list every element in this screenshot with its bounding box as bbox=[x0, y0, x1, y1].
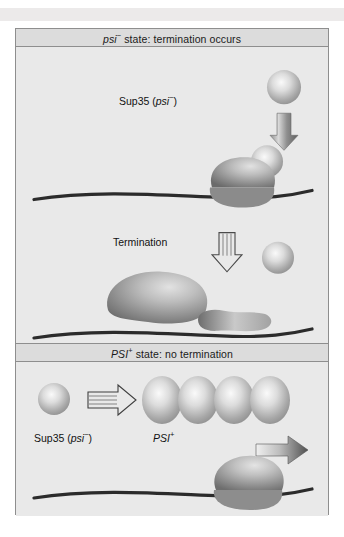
panel-psi-plus-title: PSI+ state: no termination bbox=[111, 346, 233, 360]
aggregate-unit-4 bbox=[250, 376, 290, 424]
ribosome-small-subunit bbox=[198, 310, 271, 331]
panel-psi-plus-state: PSI+ state: no termination Sup35 (psi−) … bbox=[16, 343, 328, 516]
panel-psi-plus-title-gene: PSI bbox=[111, 347, 128, 359]
sphere-sup35-monomer-bottom bbox=[38, 383, 70, 415]
panel-psi-plus-body: Sup35 (psi−) PSI+ bbox=[16, 362, 328, 516]
aggregate-unit-2 bbox=[178, 376, 218, 424]
panel-psi-plus-title-bar: PSI+ state: no termination bbox=[16, 344, 328, 362]
top-white-gap bbox=[0, 21, 344, 28]
aggregate-unit-1 bbox=[142, 376, 182, 424]
ribosome-reading-through bbox=[214, 456, 284, 510]
arrow-right-hollow-aggregation bbox=[88, 385, 136, 415]
panel-psi-plus-graphics bbox=[16, 362, 328, 516]
panel-psi-plus-title-rest: state: no termination bbox=[133, 347, 233, 359]
top-white-strip bbox=[0, 0, 344, 8]
figure-frame: psi− state: termination occurs Sup35 (ps… bbox=[15, 28, 329, 515]
top-gray-band bbox=[0, 8, 344, 21]
aggregate-unit-3 bbox=[214, 376, 254, 424]
psi-plus-prion-aggregate bbox=[142, 376, 290, 424]
